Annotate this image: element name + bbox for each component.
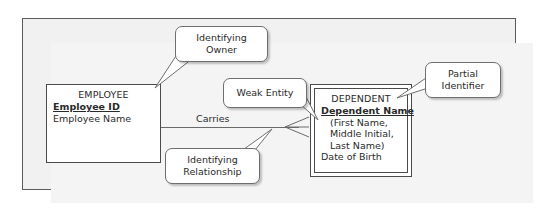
entity-dependent[interactable]: DEPENDENT Dependent Name (First Name, Mi… (310, 84, 412, 177)
callout-identifying-relationship[interactable]: Identifying Relationship (165, 148, 260, 184)
callout-partial-identifier[interactable]: Partial Identifier (425, 62, 501, 98)
callout-identifying-owner-text: Identifying Owner (196, 32, 247, 57)
attribute-last-name: Last Name) (321, 140, 401, 152)
callout-identifying-owner[interactable]: Identifying Owner (175, 26, 268, 62)
attribute-employee-id: Employee ID (53, 101, 154, 113)
callout-weak-entity-text: Weak Entity (237, 87, 294, 100)
entity-dependent-title: DEPENDENT (321, 93, 401, 105)
attribute-dependent-name: Dependent Name (321, 105, 401, 117)
callout-weak-entity[interactable]: Weak Entity (223, 78, 307, 108)
entity-employee[interactable]: EMPLOYEE Employee ID Employee Name (46, 84, 161, 163)
entity-dependent-inner-border: DEPENDENT Dependent Name (First Name, Mi… (314, 88, 408, 173)
entity-dependent-body: DEPENDENT Dependent Name (First Name, Mi… (315, 89, 407, 172)
callout-identifying-relationship-text: Identifying Relationship (183, 154, 241, 179)
relationship-label: Carries (196, 113, 230, 124)
entity-employee-title: EMPLOYEE (53, 89, 154, 101)
attribute-employee-name: Employee Name (53, 113, 154, 125)
attribute-date-of-birth: Date of Birth (321, 151, 401, 163)
crows-foot-many-icon (285, 116, 311, 140)
er-diagram-figure: Carries EMPLOYEE Employee ID Employee Na… (0, 0, 538, 211)
callout-partial-identifier-text: Partial Identifier (442, 68, 485, 93)
relationship-connector-line (161, 127, 299, 128)
entity-employee-body: EMPLOYEE Employee ID Employee Name (47, 85, 160, 162)
attribute-middle-initial: Middle Initial, (321, 128, 401, 140)
attribute-first-name: (First Name, (321, 117, 401, 129)
